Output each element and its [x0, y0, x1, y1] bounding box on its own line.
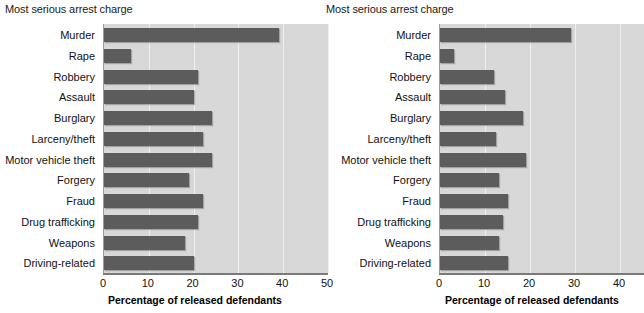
x-tick-label: 20 — [178, 277, 208, 290]
x-axis-line-right — [439, 273, 644, 275]
category-label: Murder — [0, 25, 99, 45]
bar — [440, 173, 499, 187]
bar — [104, 194, 203, 208]
bar-row — [440, 87, 644, 107]
category-label: Robbery — [0, 67, 99, 87]
category-label: Rape — [0, 46, 99, 66]
bar-row — [104, 191, 328, 211]
category-label: Fraud — [321, 191, 435, 211]
bar-row — [104, 67, 328, 87]
x-tick-label: 40 — [267, 277, 297, 290]
category-label: Driving-related — [0, 253, 99, 273]
category-label: Rape — [321, 46, 435, 66]
bar — [440, 132, 496, 146]
bar-row — [440, 108, 644, 128]
bar — [440, 194, 508, 208]
x-tick-label: 30 — [222, 277, 252, 290]
bar-row — [104, 129, 328, 149]
category-label: Larceny/theft — [321, 129, 435, 149]
category-label: Motor vehicle theft — [0, 150, 99, 170]
bar-row — [440, 191, 644, 211]
bar-row — [440, 212, 644, 232]
category-label: Larceny/theft — [0, 129, 99, 149]
category-label: Drug trafficking — [0, 212, 99, 232]
category-label: Assault — [0, 87, 99, 107]
bar-row — [440, 46, 644, 66]
category-label: Robbery — [321, 67, 435, 87]
chart-panel-right: Most serious arrest charge MurderRapeRob… — [321, 0, 643, 313]
category-label: Forgery — [0, 170, 99, 190]
category-label: Motor vehicle theft — [321, 150, 435, 170]
bar-row — [104, 170, 328, 190]
bar — [104, 173, 189, 187]
category-label: Weapons — [0, 233, 99, 253]
category-label: Burglary — [0, 108, 99, 128]
bar — [440, 236, 499, 250]
bar — [440, 153, 526, 167]
category-label: Driving-related — [321, 253, 435, 273]
bar — [440, 256, 508, 270]
x-tick-label: 0 — [88, 277, 118, 290]
panel-title-right: Most serious arrest charge — [326, 3, 454, 16]
bar — [104, 215, 198, 229]
bar-row — [104, 150, 328, 170]
category-label: Weapons — [321, 233, 435, 253]
bar — [104, 236, 185, 250]
bar — [104, 132, 203, 146]
bar — [440, 111, 523, 125]
category-label: Murder — [321, 25, 435, 45]
x-tick-label: 40 — [604, 277, 634, 290]
bar-row — [104, 108, 328, 128]
bar — [440, 70, 494, 84]
category-label: Assault — [321, 87, 435, 107]
x-tick-label: 0 — [424, 277, 454, 290]
category-label: Forgery — [321, 170, 435, 190]
bar-row — [104, 87, 328, 107]
x-axis-line-left — [103, 273, 328, 275]
bar — [104, 49, 131, 63]
bar — [104, 28, 279, 42]
bar-row — [440, 253, 644, 273]
bar-row — [440, 233, 644, 253]
bar — [440, 90, 505, 104]
chart-panel-left: Most serious arrest charge MurderRapeRob… — [0, 0, 322, 313]
category-label: Drug trafficking — [321, 212, 435, 232]
bar-row — [104, 253, 328, 273]
category-label: Burglary — [321, 108, 435, 128]
bar-row — [440, 150, 644, 170]
plot-area-left — [103, 24, 328, 273]
x-axis-title-right: Percentage of released defendants — [445, 294, 619, 307]
bar — [104, 153, 212, 167]
bar — [440, 49, 454, 63]
x-tick-label: 20 — [514, 277, 544, 290]
x-axis-title-left: Percentage of released defendants — [108, 294, 282, 307]
bar-row — [104, 212, 328, 232]
bar — [440, 28, 571, 42]
bar — [104, 256, 194, 270]
x-tick-label: 10 — [469, 277, 499, 290]
bar-row — [104, 233, 328, 253]
panel-title-left: Most serious arrest charge — [5, 3, 133, 16]
bar-row — [440, 25, 644, 45]
bar — [440, 215, 503, 229]
bar-row — [440, 170, 644, 190]
bar-row — [440, 67, 644, 87]
category-label: Fraud — [0, 191, 99, 211]
bar — [104, 111, 212, 125]
bar — [104, 70, 198, 84]
bar-row — [104, 46, 328, 66]
x-tick-label: 10 — [133, 277, 163, 290]
bar-row — [104, 25, 328, 45]
x-tick-label: 30 — [559, 277, 589, 290]
plot-area-right — [439, 24, 644, 273]
bar — [104, 90, 194, 104]
bar-row — [440, 129, 644, 149]
